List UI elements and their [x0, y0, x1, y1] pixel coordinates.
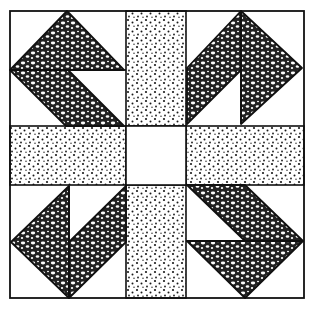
bottom-right-parallelogram: [187, 185, 303, 241]
bottom-left-parallelogram: [69, 186, 126, 298]
top-right-parallelogram: [187, 11, 241, 124]
bottom-strip: [126, 185, 186, 298]
top-left-triangle: [10, 11, 124, 70]
left-strip: [10, 126, 126, 185]
right-strip: [186, 126, 304, 185]
top-right-triangle: [241, 11, 302, 124]
top-left-parallelogram: [10, 70, 124, 126]
bottom-right-triangle: [187, 241, 303, 298]
bottom-left-triangle: [11, 186, 69, 298]
center-square: [126, 126, 186, 185]
top-right-corner-unit: [187, 11, 302, 124]
quilt-block-illustration: [0, 0, 313, 312]
top-left-corner-unit: [10, 11, 124, 126]
top-strip: [126, 11, 186, 126]
